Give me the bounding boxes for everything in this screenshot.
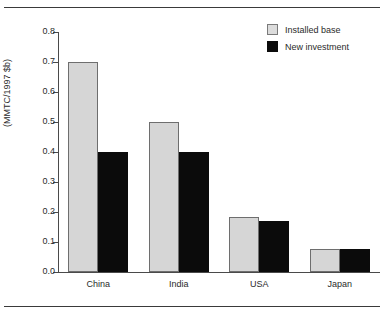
y-tick-label: 0.5 (42, 115, 55, 128)
y-tick-label: 0.4 (42, 145, 55, 158)
bar-india-new-investment (179, 152, 209, 272)
x-label-china: China (58, 278, 139, 290)
bar-group-container (58, 28, 380, 272)
x-axis-line (58, 272, 380, 273)
bar-usa-installed-base (229, 217, 259, 273)
bar-usa-new-investment (259, 221, 289, 272)
bar-japan-new-investment (340, 249, 370, 272)
bar-china-new-investment (98, 152, 128, 272)
y-tick-label: 0.2 (42, 205, 55, 218)
y-axis-title: (MMTC/1997 $b) (2, 27, 13, 127)
y-tick-label: 0.8 (42, 25, 55, 38)
x-label-usa: USA (219, 278, 300, 290)
y-tick-label: 0.7 (42, 55, 55, 68)
plot-area: 0.00.10.20.30.40.50.60.70.8 ChinaIndiaUS… (58, 28, 380, 272)
bar-india-installed-base (149, 122, 179, 272)
y-tick-label: 0.1 (42, 235, 55, 248)
bar-japan-installed-base (310, 249, 340, 272)
top-divider-rule (4, 7, 380, 8)
y-tick-label: 0.3 (42, 175, 55, 188)
y-tick-label: 0.0 (42, 265, 55, 278)
y-tick-label: 0.6 (42, 85, 55, 98)
bar-china-installed-base (68, 62, 98, 272)
x-label-india: India (139, 278, 220, 290)
bottom-divider-rule (4, 306, 380, 307)
x-label-japan: Japan (300, 278, 381, 290)
figure: (MMTC/1997 $b) Installed base New invest… (0, 0, 386, 317)
